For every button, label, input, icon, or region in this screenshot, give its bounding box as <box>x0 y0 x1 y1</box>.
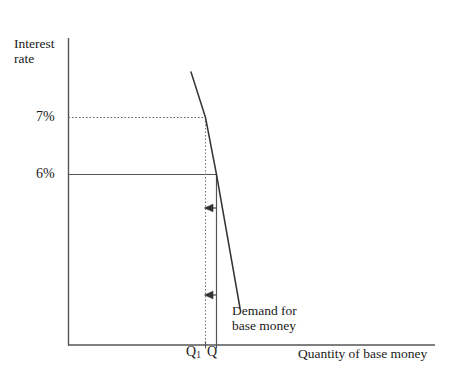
demand-curve-label-line1: Demand for <box>232 303 297 318</box>
contraction-arrow-lower <box>205 291 217 299</box>
y-tick-label-6pct: 6% <box>36 166 55 182</box>
demand-for-base-money-chart: Interest rate 7% 6% Q1 Q Quantity of bas… <box>0 0 459 370</box>
y-axis-title-text: Interest rate <box>14 36 54 66</box>
x-tick-label-q: Q <box>207 344 217 360</box>
q1-subscript: 1 <box>196 350 201 360</box>
demand-curve-label: Demand forbase money <box>232 303 297 333</box>
demand-curve <box>191 72 240 308</box>
y-tick-label-7pct: 7% <box>36 109 55 125</box>
x-tick-label-q1: Q1 <box>186 344 201 361</box>
contraction-arrow-upper <box>205 204 217 212</box>
x-axis-title: Quantity of base money <box>298 346 427 361</box>
demand-curve-label-line2: base money <box>232 318 297 333</box>
q1-letter: Q <box>186 344 196 359</box>
y-axis-title: Interest rate <box>14 36 54 66</box>
chart-canvas <box>0 0 459 370</box>
